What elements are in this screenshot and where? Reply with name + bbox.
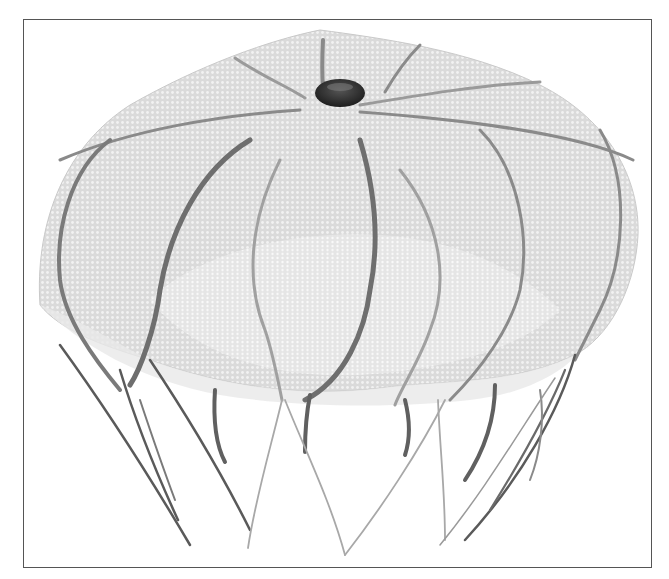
apex-knob (315, 79, 365, 107)
jellyfish-illustration (0, 0, 669, 579)
